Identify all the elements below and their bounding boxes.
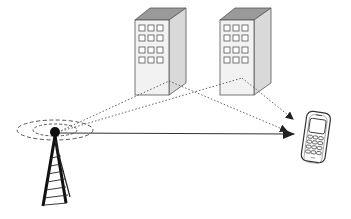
building-1 [135, 8, 186, 95]
building-icon [135, 8, 186, 95]
direct-path [58, 133, 294, 134]
multipath-diagram [0, 0, 351, 219]
building-icon [220, 8, 271, 95]
mobile-phone [300, 111, 331, 165]
building-2 [220, 8, 271, 95]
mobile-phone-icon [300, 111, 331, 165]
